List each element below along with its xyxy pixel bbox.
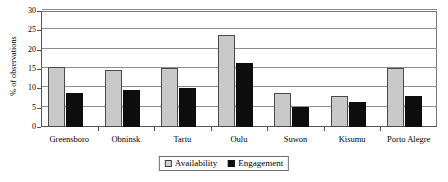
- legend-item: Engagement: [228, 158, 283, 168]
- legend-label: Engagement: [238, 158, 283, 168]
- bar-group: [380, 11, 437, 127]
- bar-availability: [105, 70, 122, 127]
- x-tick-mark: [267, 127, 268, 131]
- x-tick-mark: [380, 127, 381, 131]
- bar-group: [98, 11, 155, 127]
- x-axis-category-label: Tartu: [154, 133, 211, 145]
- y-tick-label: 20: [10, 46, 36, 54]
- bar-engagement: [66, 93, 83, 127]
- bar-availability: [48, 67, 65, 127]
- x-tick-mark: [211, 127, 212, 131]
- legend-swatch-icon: [165, 160, 172, 167]
- bar-series-layer: [41, 11, 437, 127]
- y-tick-label: 0: [10, 123, 36, 131]
- gridline: [42, 9, 437, 10]
- x-axis-category-label: Obninsk: [98, 133, 155, 145]
- bar-group: [154, 11, 211, 127]
- legend-swatch-icon: [228, 160, 235, 167]
- x-tick-mark: [98, 127, 99, 131]
- chart-legend: AvailabilityEngagement: [159, 156, 289, 171]
- bar-engagement: [236, 63, 253, 127]
- y-tick-label: 30: [10, 7, 36, 15]
- x-axis-category-label: Suwon: [267, 133, 324, 145]
- y-tick-mark: [37, 127, 41, 128]
- bar-group: [41, 11, 98, 127]
- bar-chart: % of observations 051015202530 Greensbor…: [0, 0, 448, 182]
- x-axis-category-label: Kisumu: [324, 133, 381, 145]
- bar-group: [267, 11, 324, 127]
- x-axis-category-label: Oulu: [211, 133, 268, 145]
- x-axis-category-label: Porto Alegre: [380, 133, 437, 145]
- bar-engagement: [405, 96, 422, 127]
- bar-availability: [274, 93, 291, 127]
- x-tick-mark: [324, 127, 325, 131]
- y-tick-label: 15: [10, 65, 36, 73]
- bar-engagement: [179, 88, 196, 127]
- bar-group: [324, 11, 381, 127]
- x-tick-mark: [154, 127, 155, 131]
- x-axis-category-label: Greensboro: [41, 133, 98, 145]
- legend-label: Availability: [175, 158, 217, 168]
- y-tick-label: 5: [10, 104, 36, 112]
- bar-engagement: [292, 107, 309, 127]
- y-tick-label: 10: [10, 84, 36, 92]
- legend-item: Availability: [165, 158, 217, 168]
- bar-availability: [218, 35, 235, 127]
- bar-availability: [387, 68, 404, 127]
- bar-availability: [331, 96, 348, 127]
- y-tick-label: 25: [10, 26, 36, 34]
- bar-engagement: [349, 102, 366, 127]
- bar-availability: [161, 68, 178, 127]
- bar-engagement: [123, 90, 140, 128]
- bar-group: [211, 11, 268, 127]
